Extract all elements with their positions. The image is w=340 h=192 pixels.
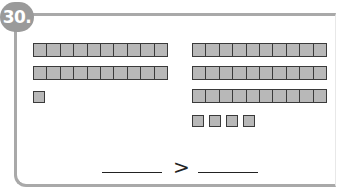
ten-rod [33,43,168,57]
unit-cube [243,115,255,127]
comparison-symbol: > [173,157,190,177]
problem-number-badge: 30. [0,2,34,32]
unit-cube [33,91,45,103]
unit-cube [209,115,221,127]
unit-cube [226,115,238,127]
ten-rod [192,66,327,80]
answer-blank-left[interactable] [102,172,162,173]
unit-cube [192,115,204,127]
answer-blank-right[interactable] [198,172,258,173]
ten-rod [192,89,327,103]
ten-rod [192,43,327,57]
ten-rod [33,66,168,80]
